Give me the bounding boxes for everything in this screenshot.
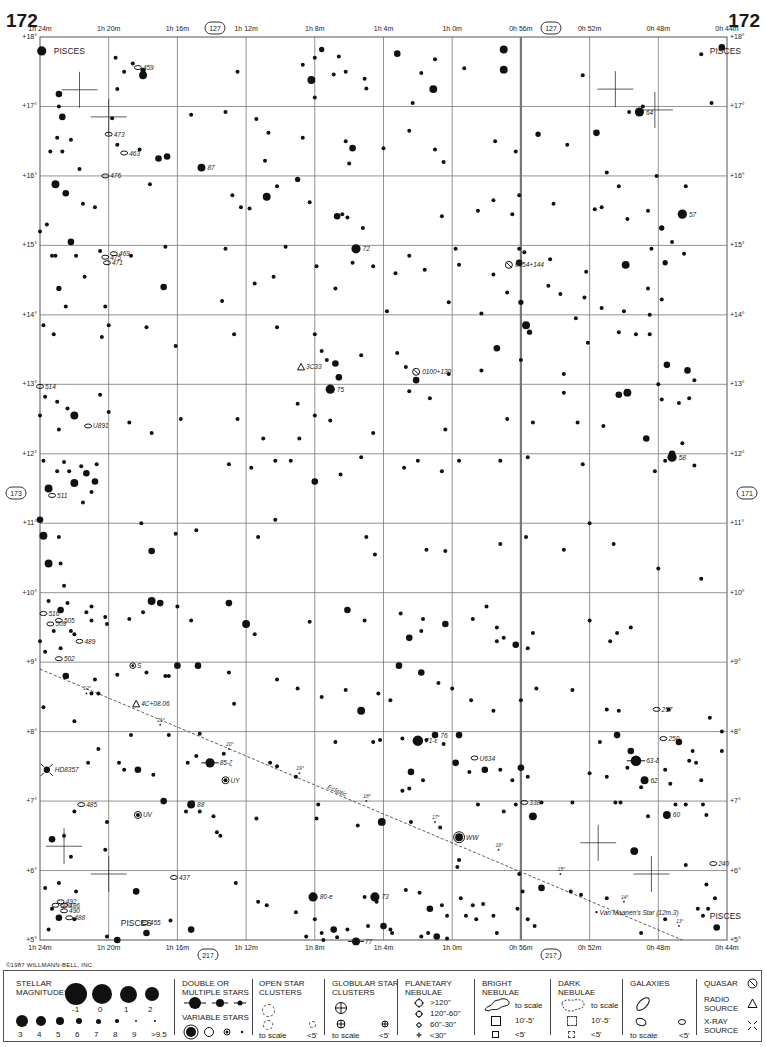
star	[347, 161, 351, 165]
adjacent-chart-link[interactable]: 127	[205, 22, 225, 34]
star	[687, 759, 691, 763]
star	[55, 136, 59, 140]
variable-star-icons	[182, 1024, 252, 1040]
star	[402, 466, 406, 470]
adjacent-chart-number: 217	[202, 952, 214, 959]
ra-tick-label-bottom: 1h 20m	[97, 944, 121, 951]
adjacent-chart-link[interactable]: 127	[541, 22, 561, 34]
star	[186, 761, 190, 765]
legend-other-sources: QUASAR RADIO SOURCE X-RAY SOURCE	[701, 971, 763, 1041]
star	[646, 209, 650, 213]
star	[663, 459, 667, 463]
star	[43, 886, 47, 890]
galaxy-icon	[121, 151, 128, 155]
star	[98, 249, 102, 253]
star	[57, 881, 61, 885]
star	[407, 254, 411, 258]
star	[52, 332, 56, 336]
star	[378, 818, 386, 826]
star	[531, 421, 535, 425]
star	[275, 764, 279, 768]
star	[316, 803, 320, 807]
star	[275, 325, 279, 329]
star	[584, 270, 588, 274]
star	[502, 809, 506, 813]
star	[103, 615, 107, 619]
star	[491, 914, 495, 918]
star	[144, 671, 148, 675]
star	[52, 629, 56, 633]
star	[625, 217, 629, 221]
legend-bright-nebulae: BRIGHT NEBULAE to scale 10'-5' <5'	[479, 971, 549, 1041]
star	[524, 535, 528, 539]
star	[43, 650, 47, 654]
star	[519, 358, 523, 362]
star	[648, 332, 652, 336]
star	[582, 295, 586, 299]
object-label: 240	[717, 860, 729, 867]
star	[696, 907, 700, 911]
star	[605, 707, 609, 711]
star	[57, 535, 61, 539]
ecliptic-degree-label: 13°	[676, 918, 684, 924]
star	[194, 528, 198, 532]
star	[55, 400, 59, 404]
adjacent-chart-link[interactable]: 173	[6, 487, 26, 499]
star	[86, 761, 90, 765]
star	[266, 131, 270, 135]
star	[150, 431, 154, 435]
star	[174, 344, 178, 348]
star	[704, 813, 708, 817]
double-star-marker	[631, 756, 642, 767]
star	[605, 775, 609, 779]
adjacent-chart-link[interactable]: 171	[737, 487, 757, 499]
star-object: 87	[197, 164, 215, 172]
star	[344, 607, 351, 614]
ra-tick-label-top: 1h 8m	[305, 25, 325, 32]
object-label: U634	[480, 755, 496, 762]
star	[261, 436, 265, 440]
star	[363, 895, 367, 899]
object-label: 3C33	[306, 363, 322, 370]
star	[43, 395, 47, 399]
adjacent-chart-link[interactable]: 217	[541, 949, 561, 960]
star	[52, 180, 60, 188]
star	[304, 935, 308, 939]
star	[72, 809, 76, 813]
chart-legend: STELLAR MAGNITUDES -1012 3456789>9.5 DOU…	[3, 970, 762, 1042]
star-object: Van Maanen's Star (12m.3)	[595, 909, 678, 917]
dec-tick-label-right: +14°	[730, 311, 745, 318]
ra-tick-label-top: 1h 4m	[374, 25, 394, 32]
adjacent-chart-link[interactable]: 217	[198, 949, 218, 960]
star	[129, 733, 133, 737]
star	[160, 284, 167, 291]
star-marker	[351, 244, 360, 253]
star	[687, 396, 691, 400]
star	[426, 931, 430, 935]
star	[419, 935, 423, 939]
object-label: 85-ζ	[220, 759, 233, 767]
star-marker	[432, 732, 439, 739]
star	[407, 389, 411, 393]
star	[83, 275, 87, 279]
star	[388, 928, 392, 932]
star	[495, 639, 499, 643]
star	[141, 610, 145, 614]
object-label: U891	[93, 422, 109, 429]
magnitude-swatch	[115, 1019, 119, 1023]
radio-object: 3C33	[298, 363, 322, 370]
star	[570, 688, 574, 692]
star	[608, 639, 612, 643]
star	[39, 532, 47, 540]
star	[574, 316, 578, 320]
star	[701, 803, 705, 807]
star	[646, 814, 650, 818]
star	[297, 436, 301, 440]
star	[62, 190, 69, 197]
star	[494, 345, 501, 352]
star	[249, 466, 253, 470]
star	[533, 924, 537, 928]
galaxy-object: 502	[55, 655, 75, 662]
star	[78, 167, 82, 171]
ra-tick-label-top: 0h 52m	[578, 25, 602, 32]
